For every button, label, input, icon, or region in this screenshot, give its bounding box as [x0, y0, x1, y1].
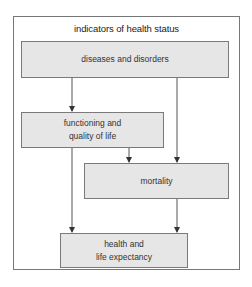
- node-health-and-life-expectancy: health and life expectancy: [60, 233, 188, 268]
- node-label: diseases and disorders: [81, 53, 168, 66]
- node-functioning-and-quality-of-life: functioning and quality of life: [21, 112, 164, 148]
- node-label-line1: health and: [104, 238, 144, 251]
- node-label-line1: functioning and: [64, 117, 122, 130]
- node-diseases-and-disorders: diseases and disorders: [21, 41, 229, 78]
- diagram-title: indicators of health status: [13, 23, 240, 34]
- node-mortality: mortality: [84, 163, 229, 199]
- node-label-line2: life expectancy: [96, 251, 152, 264]
- node-label: mortality: [140, 175, 172, 188]
- node-label-line2: quality of life: [69, 130, 116, 143]
